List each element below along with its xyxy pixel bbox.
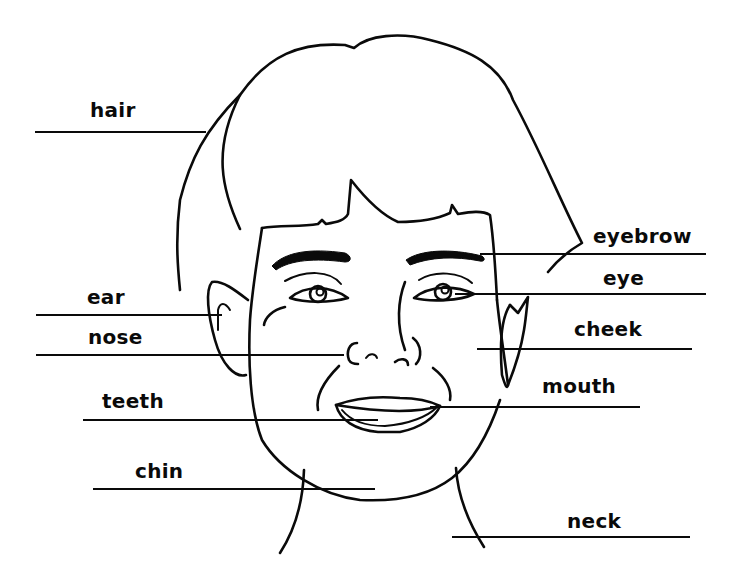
face-left-contour	[249, 228, 500, 500]
label-hair: hair	[90, 100, 136, 120]
nose-bridge	[399, 282, 405, 350]
label-chin: chin	[135, 461, 183, 481]
face-diagram: hair ear nose teeth chin eyebrow eye che…	[0, 0, 742, 583]
label-cheek: cheek	[574, 319, 642, 339]
label-eyebrow: eyebrow	[593, 226, 692, 246]
nose-right-nostril	[395, 338, 420, 365]
left-eye-lid	[285, 273, 341, 284]
left-ear	[208, 282, 248, 376]
label-neck: neck	[567, 511, 621, 531]
hair-outline	[223, 36, 582, 272]
left-cheek-line	[264, 307, 285, 325]
label-nose: nose	[88, 327, 143, 347]
left-ear-inner	[218, 304, 230, 330]
right-eyebrow	[406, 251, 484, 265]
neck-right	[456, 468, 484, 547]
left-smile-line	[317, 366, 339, 410]
label-teeth: teeth	[102, 391, 164, 411]
nose-left-nostril	[348, 343, 358, 364]
left-eyebrow	[272, 251, 350, 270]
label-ear: ear	[87, 287, 125, 307]
upper-lip	[336, 397, 440, 410]
neck-left	[280, 470, 304, 553]
bangs	[262, 180, 497, 300]
right-eye-lid	[419, 274, 472, 283]
label-eye: eye	[603, 268, 644, 288]
label-mouth: mouth	[542, 376, 616, 396]
nose-tip	[366, 354, 377, 358]
hair-left-side	[177, 95, 240, 290]
right-smile-line	[433, 368, 450, 400]
